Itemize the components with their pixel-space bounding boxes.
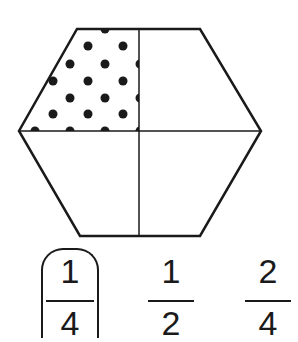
- numerator: 1: [141, 252, 201, 292]
- fraction-bar: [46, 300, 94, 302]
- fraction-bar: [148, 300, 194, 302]
- answer-option-2[interactable]: 1 2: [141, 252, 201, 332]
- answer-option-3[interactable]: 2 4: [238, 252, 298, 332]
- denominator: 4: [238, 304, 298, 342]
- fraction-bar: [245, 300, 291, 302]
- denominator: 2: [141, 304, 201, 342]
- hexagon-outline: [19, 29, 261, 236]
- numerator: 1: [40, 252, 100, 292]
- denominator: 4: [40, 304, 100, 342]
- numerator: 2: [238, 252, 298, 292]
- answer-option-1[interactable]: 1 4: [40, 252, 100, 332]
